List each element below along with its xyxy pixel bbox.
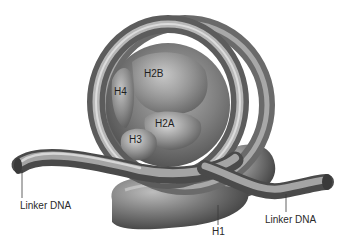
label-linker-dna-right: Linker DNA [265,215,316,225]
label-linker-dna-left: Linker DNA [20,201,71,211]
label-h1: H1 [212,227,225,237]
label-h4: H4 [114,87,127,97]
label-h2b: H2B [144,69,163,79]
label-h2a: H2A [155,119,174,129]
histone-core [106,43,230,167]
nucleosome-diagram: H2B H4 H2A H3 Linker DNA H1 Linker DNA [0,0,348,247]
label-h3: H3 [129,135,142,145]
